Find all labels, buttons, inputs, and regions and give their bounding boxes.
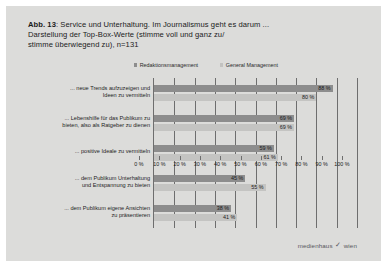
category-axis: ... neue Trends aufzuzeigen undIdeen zu … — [20, 78, 153, 228]
bar-value-label-series-0-category-3: 45 % — [231, 175, 245, 182]
bar-value-label-series-0-category-2: 59 % — [259, 145, 273, 152]
legend-swatch-icon — [220, 63, 223, 66]
category-label-line: ... positive Ideale zu vermitteln — [75, 148, 150, 154]
bar-value-label-series-1-category-1: 69 % — [280, 124, 294, 131]
category-label-2: ... positive Ideale zu vermitteln — [20, 148, 150, 155]
figure-number: Abb. 13 — [28, 20, 56, 29]
category-label-line: ... neue Trends aufzuzeigen und — [70, 85, 150, 91]
axis-tick-label-50: 50 % — [234, 161, 246, 167]
bar-series-1-category-1[interactable] — [154, 124, 294, 131]
axis-tick-label-90: 90 % — [316, 161, 328, 167]
legend-entry-1[interactable]: General Management — [220, 62, 278, 68]
brand-left: medienhaus — [298, 242, 333, 249]
legend-swatch-icon — [134, 63, 137, 66]
axis-tick-80 — [301, 156, 302, 160]
legend-label: General Management — [226, 62, 278, 68]
category-label-4: ... dem Publikum eigene Ansichtenzu präs… — [20, 205, 150, 219]
gridline-90 — [337, 78, 338, 228]
axis-tick-60 — [261, 156, 262, 160]
bar-value-label-series-0-category-0: 88 % — [318, 85, 332, 92]
category-label-line: zu präsentieren — [111, 212, 150, 218]
category-label-line: ... dem Publikum Unterhaltung — [75, 175, 150, 181]
bar-series-1-category-0[interactable] — [154, 94, 316, 101]
category-label-line: ... Lebenshilfe für das Publikum zu — [64, 115, 150, 121]
plot-area: ... neue Trends aufzuzeigen undIdeen zu … — [20, 78, 368, 228]
legend-label: Redaktionsmanagement — [140, 62, 198, 68]
axis-tick-100 — [342, 156, 343, 160]
axis-tick-70 — [281, 156, 282, 160]
axis-tick-90 — [322, 156, 323, 160]
bars-canvas: 88 %80 %69 %69 %59 %61 %45 %55 %38 %41 % — [153, 78, 356, 228]
category-label-3: ... dem Publikum Unterhaltungund Entspan… — [20, 175, 150, 189]
bar-value-label-series-0-category-1: 69 % — [280, 115, 294, 122]
axis-tick-10 — [159, 156, 160, 160]
gridline-100 — [357, 78, 358, 228]
axis-tick-20 — [180, 156, 181, 160]
category-label-1: ... Lebenshilfe für das Publikum zubiete… — [20, 115, 150, 129]
bar-series-1-category-3[interactable] — [154, 184, 266, 191]
axis-tick-label-30: 30 % — [194, 161, 206, 167]
bar-value-label-series-0-category-4: 38 % — [217, 205, 231, 212]
brand-right: wien — [344, 242, 357, 249]
bar-value-label-series-1-category-3: 55 % — [251, 184, 265, 191]
legend-entry-0[interactable]: Redaktionsmanagement — [134, 62, 198, 68]
category-label-line: bieten, also als Ratgeber zu dienen — [62, 122, 150, 128]
value-axis: 0 %10 %20 %30 %40 %50 %60 %70 %80 %90 %1… — [139, 156, 342, 174]
figure-panel: Abb. 13: Service und Unterhaltung. Im Jo… — [6, 6, 381, 261]
category-label-line: und Entspannung zu bieten — [82, 182, 150, 188]
brand-footer: medienhaus ✓ wien — [298, 241, 357, 249]
bar-value-label-series-1-category-0: 80 % — [302, 94, 316, 101]
axis-tick-label-10: 10 % — [153, 161, 165, 167]
check-icon: ✓ — [335, 241, 341, 249]
axis-tick-label-80: 80 % — [295, 161, 307, 167]
figure-caption: Abb. 13: Service und Unterhaltung. Im Jo… — [28, 20, 358, 51]
chart-legend: RedaktionsmanagementGeneral Management — [134, 62, 278, 68]
caption-line-3: stimme überwiegend zu), n=131 — [28, 40, 138, 49]
caption-line-1: : Service und Unterhaltung. Im Journalis… — [56, 20, 269, 29]
category-label-0: ... neue Trends aufzuzeigen undIdeen zu … — [20, 85, 150, 99]
bar-series-0-category-0[interactable] — [154, 85, 333, 92]
caption-line-2: Darstellung der Top-Box-Werte (stimme vo… — [28, 30, 224, 39]
axis-tick-label-40: 40 % — [214, 161, 226, 167]
axis-tick-label-0: 0 % — [134, 161, 143, 167]
axis-tick-50 — [241, 156, 242, 160]
axis-tick-label-60: 60 % — [255, 161, 267, 167]
bar-value-label-series-1-category-4: 41 % — [223, 214, 237, 221]
bar-series-0-category-2[interactable] — [154, 145, 274, 152]
category-label-line: Ideen zu vermitteln — [103, 92, 150, 98]
axis-tick-0 — [139, 156, 140, 160]
category-label-line: ... dem Publikum eigene Ansichten — [64, 205, 150, 211]
bar-series-0-category-1[interactable] — [154, 115, 294, 122]
axis-tick-label-70: 70 % — [275, 161, 287, 167]
axis-tick-40 — [220, 156, 221, 160]
axis-tick-label-100: 100 % — [334, 161, 349, 167]
axis-tick-label-20: 20 % — [173, 161, 185, 167]
axis-tick-30 — [200, 156, 201, 160]
gridline-80 — [316, 78, 317, 228]
